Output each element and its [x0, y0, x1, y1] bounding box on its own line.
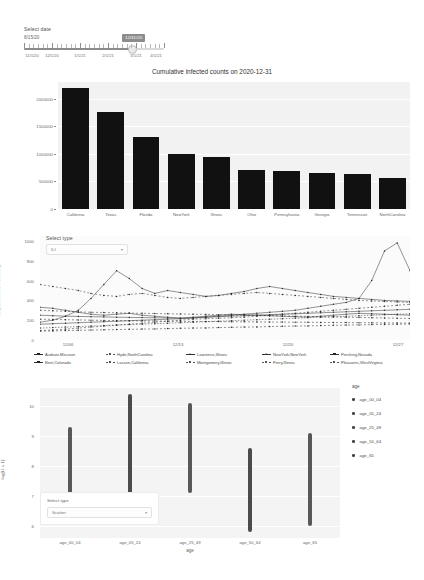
bar[interactable] — [344, 174, 371, 209]
bar[interactable] — [168, 154, 195, 209]
bar-chart-plot-area — [58, 82, 410, 209]
line-type-select-value: ILI — [51, 247, 56, 252]
slider-fill — [24, 48, 132, 50]
scatter-legend-label: age_25_49 — [360, 425, 382, 430]
legend-item[interactable]: Pleasants,WestVirginia — [330, 360, 382, 365]
slider-tick — [99, 44, 100, 47]
scatter-legend-item[interactable]: age_50_64 — [352, 439, 422, 444]
legend-marker-icon — [34, 353, 43, 357]
legend-item[interactable]: Lassen,California — [106, 360, 148, 365]
bar[interactable] — [379, 178, 406, 209]
slider-tick — [131, 44, 132, 47]
slider-tick — [52, 43, 53, 48]
chevron-down-icon: ▾ — [121, 248, 123, 252]
date-slider-panel: Select date 8/15/20 12/31/20 11/1/2012/1… — [24, 26, 164, 57]
bar-y-tick-label: 1500000 — [36, 124, 53, 129]
legend-item[interactable]: NewYork,NewYork — [262, 352, 306, 357]
legend-item[interactable]: Pershing,Nevada — [330, 352, 372, 357]
scatter-x-axis-title: age — [186, 548, 194, 553]
ili-line-chart: ILI (New Cases Per 100K) 100080060040020… — [0, 232, 424, 374]
legend-dot-icon — [352, 426, 355, 429]
legend-label: Hyde,NorthCarolina — [117, 352, 153, 357]
bar[interactable] — [62, 88, 89, 209]
scatter-y-tick-label: 9 — [32, 434, 34, 439]
date-slider[interactable]: 8/15/20 12/31/20 11/1/2012/1/201/1/212/1… — [24, 35, 164, 57]
legend-marker-icon — [330, 353, 339, 357]
legend-label: Lawrence,Illinois — [197, 352, 227, 357]
scatter-points-column[interactable] — [248, 448, 252, 532]
scatter-legend-label: age_05_24 — [360, 411, 382, 416]
slider-label: Select date — [24, 26, 164, 32]
line-chart-y-axis: 10008006004002000 — [0, 236, 38, 340]
bar[interactable] — [97, 112, 124, 209]
scatter-y-tick-label: 7 — [32, 494, 34, 499]
scatter-y-tick-label: 6 — [32, 524, 34, 529]
slider-tick-label: 2/1/21 — [102, 53, 113, 58]
bar[interactable] — [133, 137, 160, 209]
slider-tick — [164, 43, 165, 48]
line-chart-type-select-group: Select type ILI ▾ — [46, 235, 128, 255]
gridline — [40, 526, 340, 527]
scatter-legend-item[interactable]: age_25_49 — [352, 425, 422, 430]
slider-tick — [136, 43, 137, 48]
bar-y-tick-label: 1000000 — [36, 151, 53, 156]
scatter-points-column[interactable] — [308, 433, 312, 526]
cumulative-infected-bar-chart: Cumulative infected counts on 2020-12-31… — [0, 68, 424, 220]
line-type-select[interactable]: ILI ▾ — [46, 244, 128, 255]
bar-x-tick-label: Georgia — [315, 212, 330, 217]
scatter-legend-item[interactable]: age_65 — [352, 453, 422, 458]
slider-tick — [145, 44, 146, 47]
scatter-legend-title: age — [352, 384, 422, 389]
legend-item[interactable]: Lawrence,Illinois — [186, 352, 227, 357]
bar-x-tick-label: Florida — [140, 212, 153, 217]
slider-tick-label: 3/1/21 — [130, 53, 141, 58]
legend-marker-icon — [262, 353, 271, 357]
slider-tick — [47, 44, 48, 47]
slider-tick — [127, 44, 128, 47]
slider-tick — [43, 44, 44, 47]
bar[interactable] — [309, 173, 336, 209]
slider-tick — [38, 44, 39, 47]
scatter-x-tick-label: age_50_64 — [240, 540, 261, 545]
legend-dot-icon — [352, 440, 355, 443]
legend-dot-icon — [352, 454, 355, 457]
slider-tick-labels: 11/1/2012/1/201/1/212/1/213/1/214/1/21 — [24, 53, 164, 61]
scatter-legend-item[interactable]: age_05_24 — [352, 411, 422, 416]
line-y-tick-label: 400 — [27, 298, 34, 303]
bar-y-tick-label: 2000000 — [36, 96, 53, 101]
scatter-type-select[interactable]: Scatter ▾ — [47, 507, 152, 518]
scatter-legend-label: age_00_04 — [360, 397, 382, 402]
bar[interactable] — [273, 171, 300, 209]
slider-tick-label: 12/1/20 — [45, 53, 59, 58]
scatter-y-tick-label: 10 — [29, 404, 34, 409]
scatter-y-tick-label: 8 — [32, 464, 34, 469]
slider-tick — [75, 44, 76, 47]
slider-tick — [94, 44, 95, 47]
scatter-legend: age age_00_04age_05_24age_25_49age_50_64… — [352, 384, 422, 467]
bar-x-tick-label: Texas — [105, 212, 116, 217]
legend-marker-icon — [330, 361, 339, 365]
bar-x-tick-label: NewYork — [173, 212, 190, 217]
slider-tick — [66, 44, 67, 47]
bar-x-tick-label: Tennessee — [347, 212, 367, 217]
slider-tick — [61, 44, 62, 47]
line-x-tick-label: 12/06 — [63, 342, 73, 347]
scatter-points-column[interactable] — [188, 403, 192, 493]
line-chart-legend: Audrain,MissouriBent,ColoradoHyde,NorthC… — [34, 352, 424, 372]
bar[interactable] — [203, 157, 230, 209]
bar-x-tick-label: Illinois — [211, 212, 223, 217]
legend-item[interactable]: Hyde,NorthCarolina — [106, 352, 153, 357]
slider-tick-label: 4/1/21 — [150, 53, 161, 58]
scatter-legend-item[interactable]: age_00_04 — [352, 397, 422, 402]
legend-item[interactable]: Bent,Colorado — [34, 360, 71, 365]
slider-tick — [24, 43, 25, 48]
legend-item[interactable]: Montgomery,Illinois — [186, 360, 232, 365]
legend-item[interactable]: Audrain,Missouri — [34, 352, 75, 357]
slider-tick — [29, 44, 30, 47]
slider-tick — [80, 43, 81, 48]
legend-item[interactable]: Perry,Illinois — [262, 360, 295, 365]
slider-tick — [33, 44, 34, 47]
bar[interactable] — [238, 170, 265, 209]
slider-tick — [71, 44, 72, 47]
bar-y-tick-mark — [54, 181, 56, 182]
